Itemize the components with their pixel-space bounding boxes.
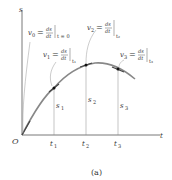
svg-text:ds: ds <box>105 21 111 27</box>
t3-label: t 3 <box>114 140 121 149</box>
t2-label: t 2 <box>82 140 89 149</box>
svg-text:2: 2 <box>86 143 89 149</box>
point-2 <box>85 64 88 67</box>
svg-text:dt: dt <box>105 28 111 34</box>
svg-text:t = 0: t = 0 <box>57 33 70 39</box>
svg-text:t: t <box>114 140 117 148</box>
v1-annotation: v 1 = ds dt t₁ <box>43 48 76 64</box>
svg-text:dt: dt <box>61 55 67 61</box>
svg-text:1: 1 <box>61 105 64 111</box>
position-time-diagram: s t O t 1 t 2 t 3 s 1 s 2 s 3 v 0 = ds d… <box>0 0 172 180</box>
leader-v3 <box>119 60 124 67</box>
svg-text:t: t <box>82 140 85 148</box>
svg-text:s: s <box>120 102 124 110</box>
svg-text:=: = <box>129 50 136 59</box>
s3-label: s 3 <box>120 102 128 111</box>
svg-text:dt: dt <box>46 33 52 39</box>
svg-text:3: 3 <box>124 54 127 60</box>
t1-label: t 1 <box>50 140 57 149</box>
leader-v1 <box>50 62 56 86</box>
leader-v0 <box>23 42 30 133</box>
svg-text:3: 3 <box>125 105 128 111</box>
svg-text:s: s <box>88 96 92 104</box>
svg-text:3: 3 <box>118 143 121 149</box>
svg-text:2: 2 <box>93 99 96 105</box>
s2-label: s 2 <box>88 96 96 105</box>
v3-annotation: v 3 = ds dt t₃ <box>120 48 153 64</box>
svg-text:s: s <box>56 102 60 110</box>
svg-text:=: = <box>37 28 44 37</box>
svg-text:2: 2 <box>91 27 94 33</box>
svg-text:=: = <box>96 23 103 32</box>
origin-label: O <box>12 137 19 146</box>
svg-text:ds: ds <box>138 48 144 54</box>
svg-text:t₃: t₃ <box>149 58 153 64</box>
v0-annotation: v 0 = ds dt t = 0 <box>28 25 70 39</box>
svg-text:ds: ds <box>46 26 52 32</box>
leader-v2 <box>86 30 96 63</box>
svg-text:1: 1 <box>47 54 50 60</box>
svg-text:t: t <box>50 140 53 148</box>
s1-label: s 1 <box>56 102 64 111</box>
figure-caption: (a) <box>91 168 102 177</box>
svg-text:t₁: t₁ <box>72 58 76 64</box>
svg-text:0: 0 <box>32 32 35 38</box>
point-3 <box>117 68 120 71</box>
svg-text:=: = <box>52 50 59 59</box>
t-axis-label: t <box>160 132 163 140</box>
svg-text:dt: dt <box>138 55 144 61</box>
s-axis-label: s <box>19 6 23 14</box>
svg-text:1: 1 <box>54 143 57 149</box>
point-1 <box>53 87 56 90</box>
svg-text:t₂: t₂ <box>116 33 120 39</box>
svg-text:ds: ds <box>61 48 67 54</box>
